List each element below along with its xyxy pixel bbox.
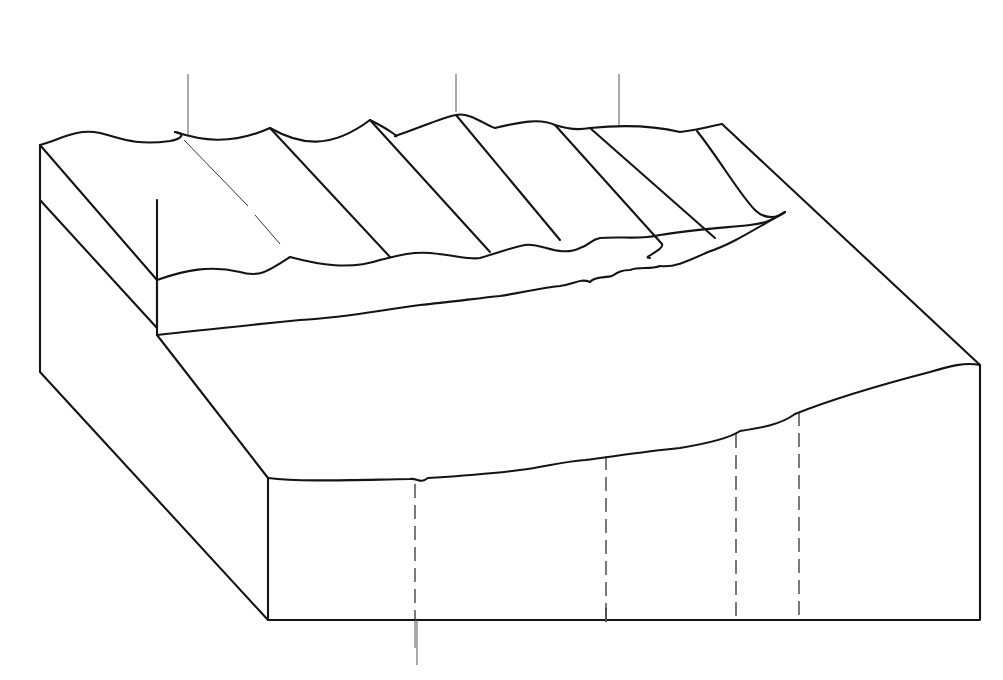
block-left-side [40,145,268,620]
lower-bedform-surface [157,335,980,620]
upper-slab-wave-surface [40,115,980,365]
beach-block-diagram [0,0,1003,680]
facies-divider-lines [415,608,606,665]
